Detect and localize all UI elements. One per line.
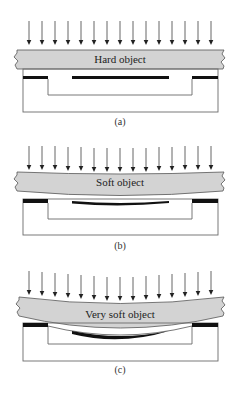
panel-caption: (b)	[114, 240, 126, 252]
contact-pad-right	[192, 199, 218, 203]
contact-electrode-center	[72, 76, 169, 79]
force-arrows	[27, 21, 214, 45]
panel-b: Soft object (b)	[14, 146, 225, 252]
panel-caption: (a)	[114, 116, 125, 128]
contact-pad-right	[192, 323, 218, 327]
contact-pad-right	[192, 76, 218, 79]
sensor-cavity	[48, 79, 192, 95]
contact-electrode-center	[72, 201, 169, 205]
diagram-canvas: Hard object (a) Soft object	[0, 0, 239, 395]
force-arrows	[27, 271, 214, 301]
contact-pad-left	[23, 323, 48, 327]
contact-pad-left	[23, 76, 48, 79]
force-arrows	[27, 146, 214, 172]
sensor-outer-box	[23, 323, 218, 361]
panel-caption: (c)	[114, 364, 125, 376]
object-label: Soft object	[96, 176, 144, 188]
panel-a: Hard object (a)	[14, 21, 225, 128]
sensor-cavity	[48, 203, 192, 219]
object-label: Very soft object	[85, 308, 155, 320]
panel-c: Very soft object (c)	[16, 271, 225, 376]
object-label: Hard object	[94, 53, 146, 65]
sensor-outer-box	[23, 69, 218, 112]
contact-pad-left	[23, 199, 48, 203]
